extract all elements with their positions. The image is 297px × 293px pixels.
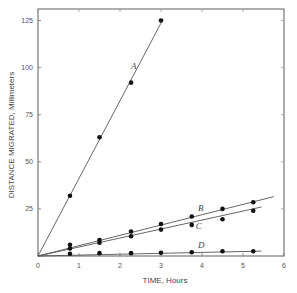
data-point — [189, 250, 194, 255]
plot-frame — [38, 9, 284, 256]
distance-vs-time-chart: 0123456255075100125 ABCD TIME, Hours DIS… — [0, 0, 297, 293]
series-b: B — [38, 197, 274, 256]
y-tick-label: 25 — [25, 205, 33, 212]
data-point — [159, 227, 164, 232]
data-point — [159, 250, 164, 255]
data-point — [220, 207, 225, 212]
plot-border — [38, 9, 284, 256]
x-axis-title: TIME, Hours — [143, 276, 188, 285]
x-tick-label: 5 — [241, 262, 245, 269]
x-tick-label: 6 — [282, 262, 286, 269]
data-point — [159, 18, 164, 23]
y-tick-label: 100 — [21, 64, 33, 71]
y-axis-title: DISTANCE MIGRATED, Millimeters — [7, 72, 16, 198]
series-c: C — [38, 207, 261, 256]
series-label-a: A — [130, 61, 137, 71]
x-tick-label: 0 — [36, 262, 40, 269]
data-point — [68, 251, 73, 256]
data-point — [129, 251, 134, 256]
y-tick-label: 125 — [21, 17, 33, 24]
data-point — [68, 246, 73, 251]
data-point — [129, 80, 134, 85]
x-tick-label: 3 — [159, 262, 163, 269]
data-point — [159, 222, 164, 227]
data-point — [220, 249, 225, 254]
y-tick-label: 50 — [25, 158, 33, 165]
data-point — [97, 251, 102, 256]
data-point — [220, 217, 225, 222]
data-point — [97, 135, 102, 140]
data-point — [97, 241, 102, 246]
x-tick-label: 2 — [118, 262, 122, 269]
series-label-b: B — [198, 203, 204, 213]
data-point — [251, 208, 256, 213]
data-point — [189, 214, 194, 219]
x-tick-label: 1 — [77, 262, 81, 269]
series-label-d: D — [197, 240, 205, 250]
data-point — [129, 229, 134, 234]
data-point — [68, 193, 73, 198]
series-a: A — [38, 18, 163, 256]
data-point — [251, 200, 256, 205]
y-tick-label: 75 — [25, 111, 33, 118]
series-label-c: C — [196, 221, 203, 231]
data-point — [251, 249, 256, 254]
trend-line — [38, 197, 274, 256]
data-point — [189, 223, 194, 228]
x-tick-label: 4 — [200, 262, 204, 269]
data-series: ABCD — [38, 18, 274, 256]
data-point — [129, 234, 134, 239]
axis-ticks: 0123456255075100125 — [21, 9, 286, 269]
